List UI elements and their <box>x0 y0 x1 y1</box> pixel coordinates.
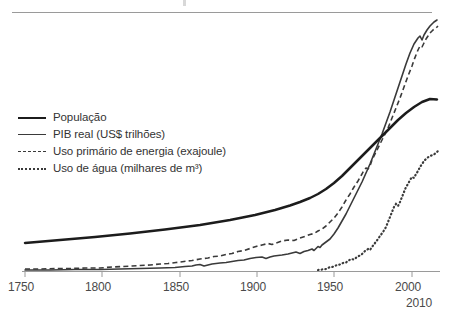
legend-swatch-dotted-icon <box>16 162 46 174</box>
x-tick-label-1900: 1900 <box>240 280 266 294</box>
legend-item-agua: Uso de água (milhares de m³) <box>16 160 256 176</box>
x-tick-label-1750: 1750 <box>8 280 34 294</box>
chart-legend: População PIB real (US$ trilhões) Uso pr… <box>16 109 256 177</box>
legend-swatch-solid-thick-icon <box>16 111 46 123</box>
chart-container: População PIB real (US$ trilhões) Uso pr… <box>0 0 449 315</box>
x-tick-label-1800: 1800 <box>85 280 111 294</box>
legend-swatch-solid-thin-icon <box>16 128 46 140</box>
legend-item-populacao: População <box>16 109 256 125</box>
legend-label-pib: PIB real (US$ trilhões) <box>53 128 165 141</box>
x-tick-label-1850: 1850 <box>163 280 189 294</box>
series-line-agua <box>318 150 439 270</box>
x-tick-label-1950: 1950 <box>317 280 343 294</box>
legend-swatch-dashed-icon <box>16 145 46 157</box>
x-axis-end-label-2010: 2010 <box>406 296 432 310</box>
legend-item-pib: PIB real (US$ trilhões) <box>16 126 256 142</box>
legend-label-agua: Uso de água (milhares de m³) <box>53 162 202 175</box>
legend-item-energia: Uso primário de energia (exajoule) <box>16 143 256 159</box>
legend-label-populacao: População <box>53 111 106 124</box>
legend-label-energia: Uso primário de energia (exajoule) <box>53 145 226 158</box>
x-axis-ticks <box>25 272 412 278</box>
x-tick-label-2000: 2000 <box>395 280 421 294</box>
